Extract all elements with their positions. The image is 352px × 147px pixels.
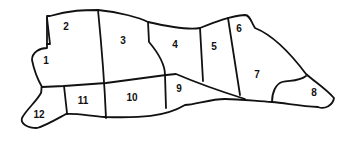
region-label-2: 2 — [63, 22, 69, 32]
region-label-8: 8 — [311, 88, 317, 98]
region-label-6: 6 — [236, 24, 242, 34]
region-label-3: 3 — [120, 36, 126, 46]
cuts-diagram — [0, 0, 352, 147]
region-label-9: 9 — [176, 84, 182, 94]
region-label-1: 1 — [43, 56, 49, 66]
region-label-7: 7 — [254, 70, 260, 80]
region-label-10: 10 — [126, 93, 137, 103]
region-label-11: 11 — [78, 96, 89, 106]
region-label-12: 12 — [33, 110, 44, 120]
region-label-4: 4 — [172, 40, 178, 50]
region-label-5: 5 — [211, 42, 217, 52]
